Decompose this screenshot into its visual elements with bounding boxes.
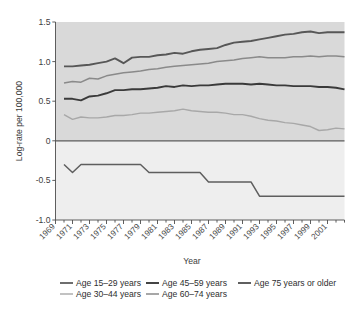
x-tick-label: 1999 xyxy=(293,222,313,242)
legend-label: Age 60–74 years xyxy=(162,289,227,299)
y-tick-label: 0.5 xyxy=(39,96,51,106)
figure-container: 1.51.00.50-0.5-1.0 196919711973197519771… xyxy=(0,0,355,309)
legend-item[interactable]: Age 15–29 years xyxy=(60,278,141,288)
x-tick-label: 1985 xyxy=(174,222,194,242)
legend-label: Age 15–29 years xyxy=(76,278,141,288)
legend-item[interactable]: Age 60–74 years xyxy=(146,289,227,299)
plot-background-above-zero xyxy=(56,22,345,141)
x-tick-label: 1971 xyxy=(55,222,75,242)
x-tick-label: 1973 xyxy=(72,222,92,242)
legend-item[interactable]: Age 45–59 years xyxy=(146,278,227,288)
legend-label: Age 45–59 years xyxy=(162,278,227,288)
legend-item[interactable]: Age 30–44 years xyxy=(60,289,141,299)
y-axis: 1.51.00.50-0.5-1.0 xyxy=(36,17,56,225)
y-tick-label: 1.5 xyxy=(39,17,51,27)
x-tick-label: 1997 xyxy=(276,222,296,242)
x-tick-label: 1975 xyxy=(89,222,109,242)
x-tick-label: 2001 xyxy=(310,222,330,242)
x-tick-label: 1983 xyxy=(157,222,177,242)
chart-legend: Age 15–29 yearsAge 45–59 yearsAge 75 yea… xyxy=(60,278,336,299)
x-tick-label: 1977 xyxy=(106,222,126,242)
x-tick-label: 1987 xyxy=(191,222,211,242)
legend-item[interactable]: Age 75 years or older xyxy=(238,278,336,288)
y-axis-title: Log-rate per 100,000 xyxy=(14,81,24,161)
x-tick-label: 1981 xyxy=(140,222,160,242)
y-tick-label: -0.5 xyxy=(36,175,51,185)
line-chart: 1.51.00.50-0.5-1.0 196919711973197519771… xyxy=(0,0,355,309)
x-axis: 1969197119731975197719791981198319851987… xyxy=(38,220,345,241)
x-tick-label: 1993 xyxy=(242,222,262,242)
legend-label: Age 30–44 years xyxy=(76,289,141,299)
y-tick-label: 1.0 xyxy=(39,57,51,67)
x-axis-title: Year xyxy=(183,256,201,266)
x-tick-label: 1991 xyxy=(225,222,245,242)
x-tick-label: 1995 xyxy=(259,222,279,242)
legend-label: Age 75 years or older xyxy=(254,278,336,288)
plot-background-below-zero xyxy=(56,141,345,220)
x-tick-label: 1989 xyxy=(208,222,228,242)
x-tick-label: 1979 xyxy=(123,222,143,242)
y-tick-label: 0 xyxy=(46,136,51,146)
